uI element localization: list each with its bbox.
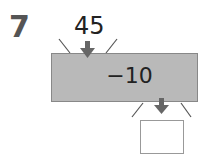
output-arrow-icon xyxy=(154,98,169,114)
input-arrow-icon xyxy=(80,41,95,58)
answer-box[interactable] xyxy=(140,120,184,154)
